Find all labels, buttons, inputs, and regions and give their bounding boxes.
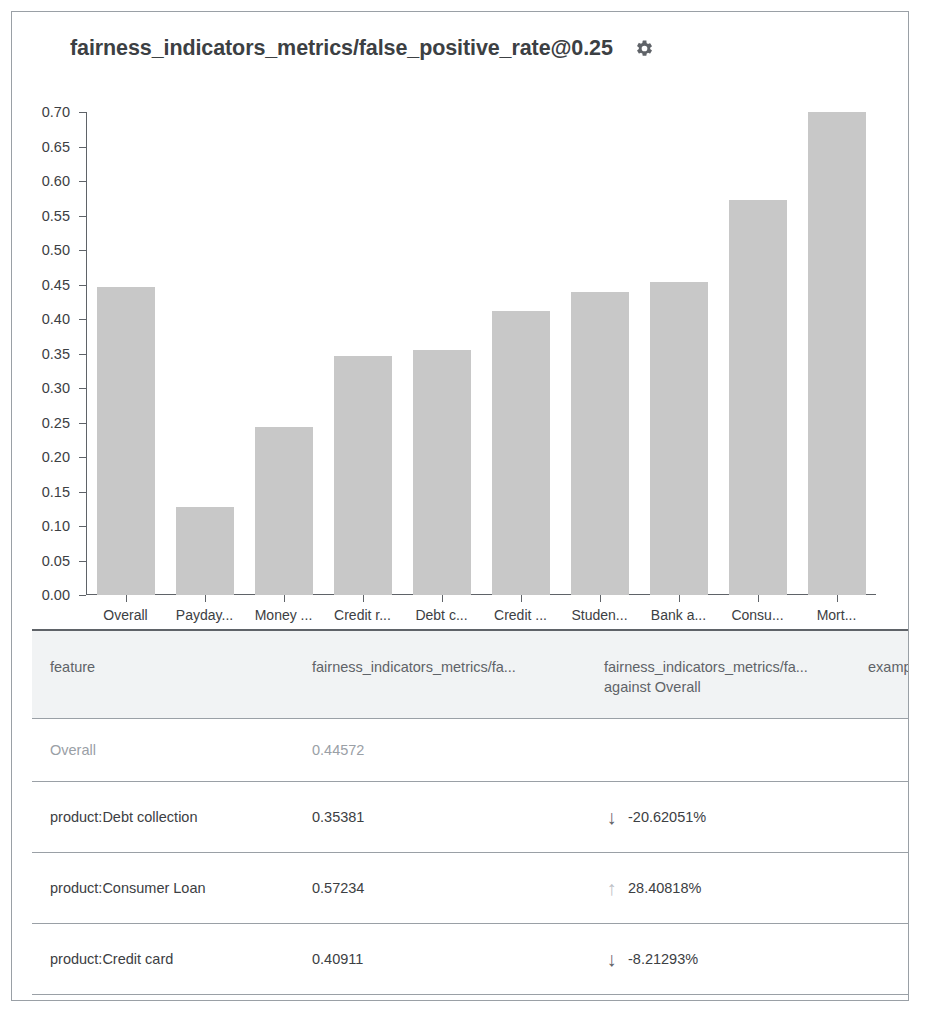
cell-metric-value: 0.57234 [312, 880, 602, 896]
table-row[interactable]: product:Debt collection0.35381↓-20.62051… [32, 782, 909, 853]
y-axis-tick-label: 0.05 [18, 553, 70, 569]
x-axis-label: Mort... [817, 607, 857, 623]
bar[interactable] [176, 507, 234, 595]
x-axis-tick [126, 595, 127, 602]
delta-percentage: -20.62051% [628, 809, 706, 825]
delta-percentage: 28.40818% [628, 880, 701, 896]
y-axis-tick [79, 147, 86, 148]
metrics-table[interactable]: feature fairness_indicators_metrics/fa..… [32, 629, 909, 1001]
cell-metric-value: 0.44572 [312, 742, 602, 758]
y-axis-tick [79, 492, 86, 493]
cell-feature: product:Consumer Loan [32, 880, 312, 896]
bar[interactable] [413, 350, 471, 595]
y-axis-tick-label: 0.20 [18, 449, 70, 465]
bar[interactable] [808, 112, 866, 595]
y-axis-tick [79, 595, 86, 596]
y-axis-tick [79, 561, 86, 562]
column-header-metric-against-overall[interactable]: fairness_indicators_metrics/fa... agains… [602, 658, 868, 697]
y-axis-tick [79, 285, 86, 286]
down-arrow-icon: ↓ [604, 807, 619, 827]
x-axis-label: Overall [103, 607, 147, 623]
page-title: fairness_indicators_metrics/false_positi… [70, 36, 613, 61]
x-axis-label: Consu... [731, 607, 783, 623]
table-row[interactable]: product:Consumer Loan0.57234↑28.40818% [32, 853, 909, 924]
x-axis-tick [600, 595, 601, 602]
chart-header: fairness_indicators_metrics/false_positi… [12, 12, 909, 84]
column-header-metric-against-overall-line1: fairness_indicators_metrics/fa... [604, 658, 868, 678]
y-axis-tick [79, 354, 86, 355]
bar[interactable] [650, 282, 708, 595]
bar[interactable] [97, 287, 155, 595]
y-axis-tick-label: 0.10 [18, 518, 70, 534]
bar[interactable] [255, 427, 313, 595]
y-axis-tick-label: 0.70 [18, 104, 70, 120]
table-row[interactable]: product:Credit card0.40911↓-8.21293% [32, 924, 909, 995]
cell-metric-against-overall: ↑28.40818% [602, 878, 868, 898]
x-axis-tick [363, 595, 364, 602]
bar[interactable] [334, 356, 392, 595]
fairness-indicator-card: fairness_indicators_metrics/false_positi… [11, 11, 909, 1001]
x-axis-tick [205, 595, 206, 602]
up-arrow-icon: ↑ [604, 878, 619, 898]
bar[interactable] [729, 200, 787, 595]
y-axis-tick-label: 0.40 [18, 311, 70, 327]
x-axis-tick [679, 595, 680, 602]
cell-metric-against-overall: ↓-20.62051% [602, 807, 868, 827]
y-axis-tick [79, 423, 86, 424]
y-axis-tick [79, 457, 86, 458]
column-header-feature[interactable]: feature [32, 658, 312, 678]
x-axis-label: Credit r... [334, 607, 391, 623]
delta-percentage: -8.21293% [628, 951, 698, 967]
false-positive-rate-bar-chart: 0.700.650.600.550.500.450.400.350.300.25… [12, 84, 909, 629]
column-header-metric[interactable]: fairness_indicators_metrics/fa... [312, 658, 602, 678]
column-header-metric-against-overall-line2: against Overall [604, 678, 868, 698]
y-axis-tick-label: 0.45 [18, 277, 70, 293]
plot-area: 0.700.650.600.550.500.450.400.350.300.25… [86, 112, 876, 595]
x-axis-label: Credit ... [494, 607, 547, 623]
y-axis-tick-label: 0.55 [18, 208, 70, 224]
y-axis-tick [79, 112, 86, 113]
cell-metric-value: 0.40911 [312, 951, 602, 967]
y-axis-tick-label: 0.65 [18, 139, 70, 155]
bar[interactable] [492, 311, 550, 595]
y-axis-tick [79, 250, 86, 251]
x-axis-tick [442, 595, 443, 602]
y-axis-tick-label: 0.30 [18, 380, 70, 396]
gear-icon[interactable] [635, 39, 654, 58]
cell-feature: product:Credit card [32, 951, 312, 967]
x-axis-tick [521, 595, 522, 602]
x-axis-label: Bank a... [651, 607, 706, 623]
down-arrow-icon: ↓ [604, 949, 619, 969]
x-axis-tick [758, 595, 759, 602]
y-axis-tick-label: 0.35 [18, 346, 70, 362]
y-axis-tick [79, 181, 86, 182]
y-axis-tick [79, 388, 86, 389]
table-row[interactable]: Overall0.44572 [32, 719, 909, 782]
x-axis-tick [284, 595, 285, 602]
column-header-example-count[interactable]: example_c [868, 658, 909, 678]
y-axis-tick-label: 0.25 [18, 415, 70, 431]
y-axis-tick [79, 526, 86, 527]
cell-metric-against-overall: ↓-8.21293% [602, 949, 868, 969]
x-axis-label: Studen... [571, 607, 627, 623]
x-axis-label: Debt c... [415, 607, 467, 623]
x-axis-tick [837, 595, 838, 602]
table-body: Overall0.44572product:Debt collection0.3… [32, 719, 909, 995]
cell-feature: product:Debt collection [32, 809, 312, 825]
y-axis [86, 112, 87, 595]
cell-feature: Overall [32, 742, 312, 758]
x-axis-label: Money ... [255, 607, 313, 623]
y-axis-tick-label: 0.50 [18, 242, 70, 258]
y-axis-tick-label: 0.60 [18, 173, 70, 189]
bar[interactable] [571, 292, 629, 595]
cell-metric-value: 0.35381 [312, 809, 602, 825]
table-header-row: feature fairness_indicators_metrics/fa..… [32, 631, 909, 719]
y-axis-tick-label: 0.00 [18, 587, 70, 603]
y-axis-tick [79, 319, 86, 320]
y-axis-tick-label: 0.15 [18, 484, 70, 500]
y-axis-tick [79, 216, 86, 217]
x-axis-label: Payday... [176, 607, 233, 623]
